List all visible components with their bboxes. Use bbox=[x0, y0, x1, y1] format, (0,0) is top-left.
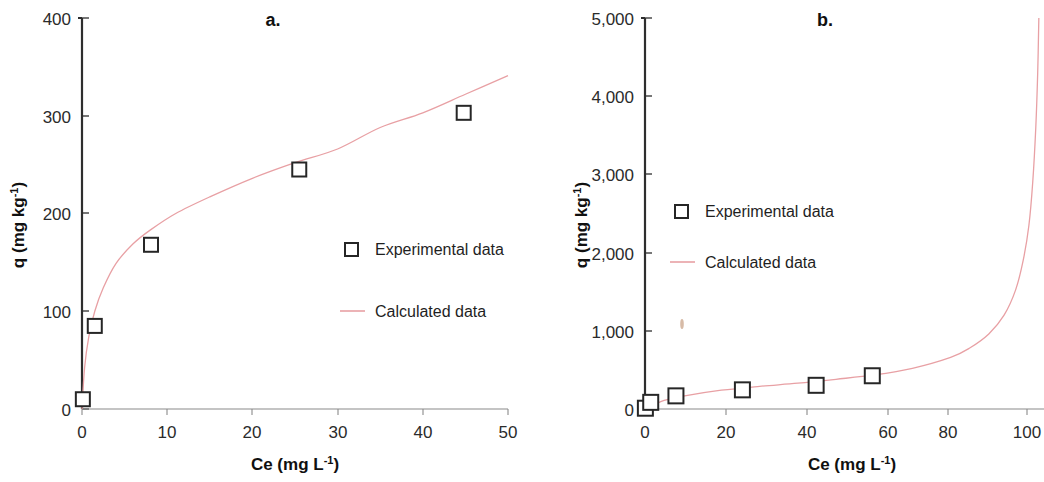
y-axis-title-b: q (mg kg-1) bbox=[571, 182, 591, 268]
x-tick-label-a-4: 40 bbox=[414, 423, 433, 442]
y-tick-label-b-4: 4,000 bbox=[591, 88, 634, 107]
x-axis-title-b: Ce (mg L-1) bbox=[808, 454, 896, 474]
y-tick-label-a-0: 0 bbox=[62, 401, 71, 420]
data-point-marker bbox=[88, 319, 102, 333]
data-point-marker bbox=[292, 163, 306, 177]
x-tick-label-a-2: 20 bbox=[243, 423, 262, 442]
y-tick-label-b-0: 0 bbox=[625, 401, 634, 420]
data-point-marker bbox=[457, 106, 471, 120]
y-tick-label-a-2: 200 bbox=[43, 205, 71, 224]
x-tick-label-b-4: 80 bbox=[939, 423, 958, 442]
x-tick-label-a-5: 50 bbox=[499, 423, 518, 442]
legend-b: Experimental data Calculated data bbox=[670, 203, 834, 271]
y-tick-label-b-5: 5,000 bbox=[591, 10, 634, 29]
x-ticks-a bbox=[82, 409, 508, 415]
legend-label-experimental-a: Experimental data bbox=[375, 241, 504, 258]
y-tick-label-b-3: 3,000 bbox=[591, 166, 634, 185]
y-axis-b bbox=[641, 18, 645, 409]
chart-panel-b: 0 1,000 2,000 3,000 4,000 5,000 0 20 40 … bbox=[522, 0, 1044, 482]
legend-label-calculated-a: Calculated data bbox=[375, 303, 486, 320]
x-axis-title-a-sup: -1 bbox=[324, 454, 334, 466]
x-tick-label-a-1: 10 bbox=[158, 423, 177, 442]
x-axis-title-b-sup: -1 bbox=[881, 454, 891, 466]
y-tick-label-a-1: 100 bbox=[43, 303, 71, 322]
legend-a: Experimental data Calculated data bbox=[340, 241, 504, 320]
x-tick-label-b-0: 0 bbox=[640, 423, 649, 442]
x-tick-label-b-5: 100 bbox=[1013, 423, 1041, 442]
data-point-marker bbox=[809, 378, 824, 393]
y-tick-label-b-1: 1,000 bbox=[591, 323, 634, 342]
scan-speck-artifact bbox=[680, 319, 684, 329]
x-tick-label-a-3: 30 bbox=[329, 423, 348, 442]
y-axis-a bbox=[78, 18, 82, 409]
y-axis-title-a-main: q (mg kg bbox=[9, 197, 28, 268]
y-axis-title-a-sup: -1 bbox=[8, 188, 20, 198]
legend-label-experimental-b: Experimental data bbox=[705, 203, 834, 220]
y-axis-title-b-main: q (mg kg bbox=[572, 197, 591, 268]
legend-marker-square-a bbox=[345, 243, 358, 256]
x-tick-label-a-0: 0 bbox=[77, 423, 86, 442]
chart-panel-a: 0 100 200 300 400 0 10 20 30 40 50 a. q … bbox=[0, 0, 522, 482]
x-axis-title-b-close: ) bbox=[890, 455, 896, 474]
data-point-marker bbox=[643, 395, 658, 410]
y-axis-title-b-sup: -1 bbox=[571, 188, 583, 198]
svg-text:q (mg kg-1): q (mg kg-1) bbox=[8, 182, 28, 268]
panel-letter-a: a. bbox=[265, 10, 280, 30]
y-axis-title-a-close: ) bbox=[9, 182, 28, 188]
x-axis-title-a: Ce (mg L-1) bbox=[251, 454, 339, 474]
x-tick-label-b-3: 60 bbox=[879, 423, 898, 442]
y-tick-label-a-4: 400 bbox=[43, 10, 71, 29]
data-point-marker bbox=[144, 238, 158, 252]
y-axis-title-b-close: ) bbox=[572, 182, 591, 188]
y-tick-label-b-2: 2,000 bbox=[591, 245, 634, 264]
panel-a-svg: 0 100 200 300 400 0 10 20 30 40 50 a. q … bbox=[0, 0, 522, 482]
panel-b-svg: 0 1,000 2,000 3,000 4,000 5,000 0 20 40 … bbox=[522, 0, 1044, 482]
legend-marker-square-b bbox=[675, 205, 688, 218]
x-axis-title-a-close: ) bbox=[333, 455, 339, 474]
data-point-marker bbox=[668, 388, 683, 403]
data-point-marker bbox=[76, 392, 90, 406]
x-axis-title-a-main: Ce (mg L bbox=[251, 455, 324, 474]
x-ticks-b bbox=[645, 409, 1027, 415]
x-axis-title-b-main: Ce (mg L bbox=[808, 455, 881, 474]
data-point-marker bbox=[865, 368, 880, 383]
svg-text:q (mg kg-1): q (mg kg-1) bbox=[571, 182, 591, 268]
figure-container: 0 100 200 300 400 0 10 20 30 40 50 a. q … bbox=[0, 0, 1044, 482]
x-tick-label-b-2: 40 bbox=[798, 423, 817, 442]
panel-letter-b: b. bbox=[817, 10, 833, 30]
x-tick-label-b-1: 20 bbox=[717, 423, 736, 442]
legend-label-calculated-b: Calculated data bbox=[705, 254, 816, 271]
y-axis-title-a: q (mg kg-1) bbox=[8, 182, 28, 268]
data-point-marker bbox=[735, 382, 750, 397]
y-tick-label-a-3: 300 bbox=[43, 108, 71, 127]
